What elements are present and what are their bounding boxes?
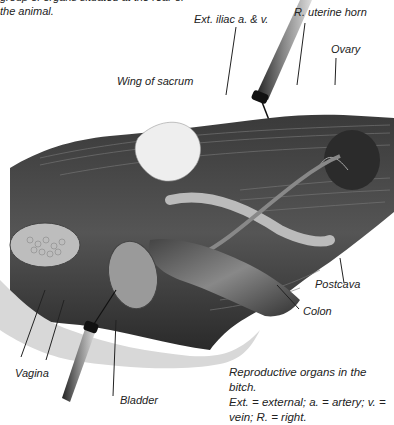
label-ovary: Ovary [331,43,360,56]
vagina-shape [10,223,80,267]
label-postcava: Postcava [315,278,360,291]
label-colon: Colon [303,305,332,318]
caption-line-3: vein; R. = right. [229,410,394,425]
label-r-uterine-horn: R. uterine horn [294,6,367,19]
label-vagina: Vagina [15,367,49,380]
label-wing-of-sacrum: Wing of sacrum [117,75,193,88]
caption-line-1: Reproductive organs in the bitch. [229,365,394,395]
label-bladder: Bladder [120,394,158,407]
figure-caption: Reproductive organs in the bitch. Ext. =… [229,365,394,425]
caption-line-2: Ext. = external; a. = artery; v. = [229,395,394,410]
label-ext-iliac: Ext. iliac a. & v. [194,13,268,26]
